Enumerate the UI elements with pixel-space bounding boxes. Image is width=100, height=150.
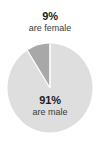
pie-svg [7, 43, 93, 133]
pie-chart-figure: 9% are female 91% are male [0, 0, 100, 150]
pie-graphic [7, 43, 93, 133]
female-percentage-value: 9% [0, 10, 100, 22]
female-percentage-caption: are female [0, 23, 100, 33]
female-annotation: 9% are female [0, 10, 100, 33]
